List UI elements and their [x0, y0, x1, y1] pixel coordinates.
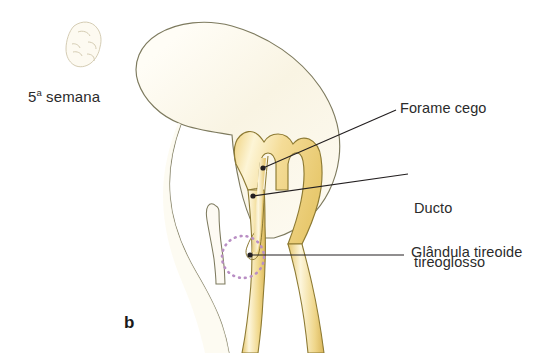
label-ducto-tireoglosso: Ducto tireoglosso [414, 163, 485, 307]
leader-line-glandula-tireoide [247, 252, 404, 257]
pharyngeal-tube-right [288, 244, 324, 353]
label-ducto-tireoglosso-line1: Ducto [414, 199, 485, 217]
stage-label-text: semana [42, 88, 100, 105]
stage-label: 5a semana [28, 88, 100, 106]
label-glandula-tireoide: Glândula tireoide [411, 243, 522, 261]
pharyngeal-tube-left [242, 190, 265, 353]
mandibular-prominence [206, 204, 225, 284]
embryo-sketch-icon [66, 22, 101, 67]
panel-letter: b [124, 313, 134, 333]
label-forame-cego: Forame cego [400, 99, 487, 117]
figure-panel-b: 5a semana Forame cego Ducto tireoglosso … [0, 0, 557, 353]
